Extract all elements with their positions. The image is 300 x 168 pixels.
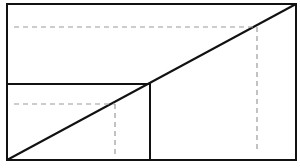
- similar-rectangles-diagram: [0, 0, 300, 168]
